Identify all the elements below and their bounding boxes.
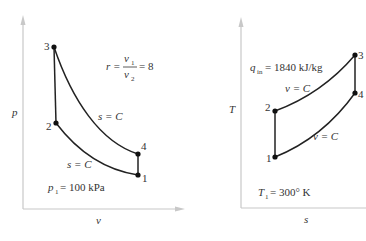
pv-process-2-3 — [54, 47, 56, 123]
otto-cycle-diagrams: p v 3 2 4 1 s = C s = C r = v 1 v 2 = 8 … — [0, 0, 366, 241]
ts-point-3 — [352, 52, 357, 57]
ts-label-3: 3 — [358, 49, 364, 61]
svg-text:1: 1 — [131, 59, 135, 67]
ts-process-4-1 — [275, 93, 355, 157]
ts-y-axis-arrow-icon — [239, 17, 244, 27]
pv-label-2: 2 — [46, 120, 52, 132]
compression-ratio-equation: r = v 1 v 2 = 8 — [106, 52, 154, 83]
pv-diagram: p v 3 2 4 1 s = C s = C r = v 1 v 2 = 8 … — [11, 15, 185, 226]
pv-label-1: 1 — [142, 172, 148, 184]
pv-point-3 — [51, 44, 56, 49]
svg-text:T: T — [258, 186, 265, 198]
ts-heat-addition-label: v = C — [285, 82, 311, 94]
initial-temperature-label: T 1 = 300° K — [258, 186, 311, 201]
pv-label-3: 3 — [44, 40, 50, 52]
initial-pressure-label: p 1 = 100 kPa — [47, 181, 105, 196]
pv-x-label: v — [96, 214, 101, 226]
pv-isentropic-expansion-label: s = C — [98, 110, 123, 122]
pv-x-axis-arrow-icon — [175, 207, 185, 212]
svg-text:1: 1 — [265, 193, 269, 201]
ts-x-label: s — [304, 213, 308, 225]
pv-point-2 — [53, 120, 58, 125]
svg-text:= 8: = 8 — [139, 60, 154, 72]
pv-label-4: 4 — [141, 140, 147, 152]
svg-text:2: 2 — [131, 75, 135, 83]
ts-y-label: T — [229, 103, 236, 115]
heat-input-label: q in = 1840 kJ/kg — [250, 61, 323, 76]
ts-label-4: 4 — [358, 88, 364, 100]
svg-text:in: in — [257, 68, 263, 76]
svg-text:1: 1 — [55, 188, 59, 196]
svg-text:p: p — [47, 181, 54, 193]
pv-point-4 — [135, 151, 140, 156]
ts-diagram: T s 1 2 3 4 v = C v = C q in = 1840 kJ/k… — [229, 17, 366, 225]
pv-y-label: p — [11, 106, 18, 118]
ts-point-4 — [352, 90, 357, 95]
svg-text:r =: r = — [106, 60, 120, 72]
ts-point-2 — [272, 108, 277, 113]
ts-label-2: 2 — [265, 101, 271, 113]
svg-text:= 1840 kJ/kg: = 1840 kJ/kg — [265, 61, 323, 73]
svg-text:v: v — [124, 68, 129, 80]
pv-y-axis-arrow-icon — [21, 15, 26, 25]
svg-text:q: q — [250, 61, 256, 73]
pv-isentropic-compression-label: s = C — [67, 158, 92, 170]
svg-text:= 300° K: = 300° K — [270, 186, 311, 198]
svg-text:v: v — [124, 52, 129, 64]
svg-text:= 100 kPa: = 100 kPa — [60, 181, 105, 193]
pv-point-1 — [135, 172, 140, 177]
ts-heat-rejection-label: v = C — [313, 130, 339, 142]
ts-label-1: 1 — [266, 152, 272, 164]
ts-point-1 — [272, 154, 277, 159]
